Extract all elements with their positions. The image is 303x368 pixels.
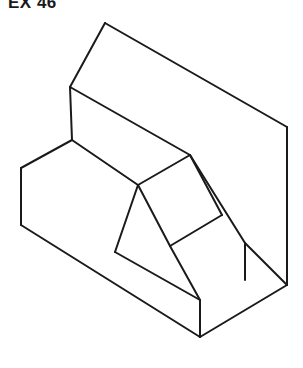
solid-faces-group: [21, 23, 287, 337]
isometric-solid-drawing: [0, 0, 303, 368]
isometric-drawing-figure: EX 46: [0, 0, 303, 368]
